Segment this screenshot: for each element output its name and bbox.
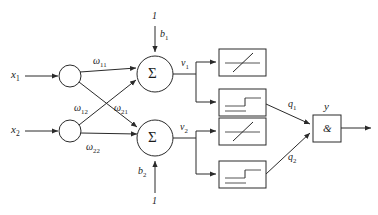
input-node-2 [59,120,81,142]
signal-q2-label: q2 [288,152,296,165]
bias1-source-label: 1 [152,11,157,21]
output-y-label: y [324,101,329,112]
weight-w21-label: ω21 [114,103,128,116]
weight-w22-label: ω22 [86,142,100,155]
net-input-v2-label: v2 [180,122,188,135]
activation-box-step-1 [219,89,266,116]
input-x2-label: x2 [11,124,20,138]
and-gate-glyph: & [323,123,332,134]
bias2-source-label: 1 [152,196,157,206]
summation-node-1-glyph: Σ [148,66,157,81]
bias-b1-label: b1 [160,29,168,42]
weight-w12-label: ω12 [74,103,88,116]
edge-w22 [81,133,137,134]
activation-box-step-2 [219,161,266,188]
net-input-v1-label: v1 [181,58,189,71]
input-x1-label: x1 [11,69,20,83]
weight-w11-label: ω11 [93,56,107,69]
input-node-1 [59,65,81,87]
bias-b2-label: b2 [138,166,146,179]
neural-network-diagram: x1 x2 ω11 ω12 ω21 ω22 1 b1 b2 1 Σ Σ v1 v… [0,0,378,215]
edge-w11 [80,68,136,72]
diagram-vector-layer [0,0,378,215]
signal-q1-label: q1 [288,99,296,112]
summation-node-2-glyph: Σ [148,130,157,145]
